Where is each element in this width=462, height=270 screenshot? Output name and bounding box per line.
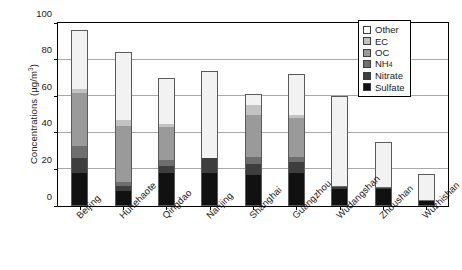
- legend-swatch: [363, 83, 371, 91]
- legend-label: EC: [375, 37, 388, 47]
- bar-segment-other: [418, 174, 435, 200]
- bar-segment-nh4: [71, 146, 88, 159]
- bar-segment-oc: [158, 127, 175, 160]
- y-axis-title: Concentrations (µg/m3): [27, 19, 39, 209]
- y-tick-label: 100: [36, 7, 58, 18]
- legend-swatch: [363, 37, 371, 45]
- y-tick-label: 20: [41, 153, 58, 164]
- legend-label: Other: [375, 25, 399, 35]
- bar-segment-other: [115, 52, 132, 120]
- stacked-bar: [158, 78, 175, 206]
- legend-label: Sulfate: [375, 83, 405, 93]
- stacked-bar: [71, 30, 88, 206]
- stacked-bar: [201, 71, 218, 206]
- legend-item-ec: EC: [363, 36, 405, 48]
- legend-label: OC: [375, 48, 389, 58]
- stacked-bar: [331, 96, 348, 206]
- bar-segment-oc: [71, 93, 88, 146]
- y-tick-label: 80: [41, 44, 58, 55]
- legend-item-oc: OC: [363, 47, 405, 59]
- legend-swatch: [363, 49, 371, 57]
- y-tick-label: 40: [41, 117, 58, 128]
- y-tick-label: 0: [47, 190, 58, 201]
- stacked-bar: [288, 74, 305, 206]
- bar-segment-oc: [245, 115, 262, 157]
- y-axis-title-text: Concentrations (µg/m3): [28, 64, 39, 164]
- legend-label: Nitrate: [375, 71, 403, 81]
- bar-segment-other: [288, 74, 305, 114]
- legend-swatch: [363, 26, 371, 34]
- legend-item-other: Other: [363, 24, 405, 36]
- bar-segment-ec: [245, 105, 262, 114]
- chart-figure: Concentrations (µg/m3) 020406080100 Othe…: [0, 0, 462, 270]
- bar-segment-other: [201, 71, 218, 159]
- bar-segment-nitrate: [288, 162, 305, 173]
- bar-segment-other: [158, 78, 175, 124]
- legend-item-nitrate: Nitrate: [363, 70, 405, 82]
- legend-label: NH4: [375, 59, 393, 69]
- bar-segment-nitrate: [158, 166, 175, 173]
- legend-item-nh4: NH4: [363, 59, 405, 71]
- bar-segment-nitrate: [71, 158, 88, 173]
- bar-segment-oc: [288, 118, 305, 156]
- bar-segment-other: [71, 30, 88, 89]
- stacked-bar: [115, 52, 132, 206]
- bar-segment-other: [331, 96, 348, 186]
- legend-swatch: [363, 72, 371, 80]
- chart-legend: OtherECOCNH4NitrateSulfate: [358, 20, 411, 97]
- legend-swatch: [363, 60, 371, 68]
- bar-segment-other: [245, 94, 262, 105]
- y-tick-label: 60: [41, 80, 58, 91]
- stacked-bar: [375, 142, 392, 206]
- bar-segment-nitrate: [245, 164, 262, 175]
- legend-item-sulfate: Sulfate: [363, 82, 405, 94]
- bar-segment-nitrate: [201, 158, 218, 173]
- bar-segment-oc: [115, 126, 132, 183]
- bar-segment-nh4: [245, 157, 262, 164]
- stacked-bar: [245, 94, 262, 206]
